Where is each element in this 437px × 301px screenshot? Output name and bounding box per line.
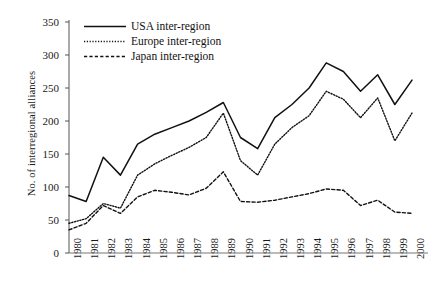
legend-swatch-dotted <box>84 36 126 46</box>
legend-swatch-solid <box>84 21 126 31</box>
legend-item-japan: Japan inter-region <box>84 48 274 63</box>
series-line-usa <box>69 63 412 202</box>
legend-item-europe: Europe inter-region <box>84 33 274 48</box>
legend-label: USA inter-region <box>131 20 210 32</box>
chart-container: No. of interregional alliances 350300250… <box>0 0 437 301</box>
chart-legend: USA inter-regionEurope inter-regionJapan… <box>84 18 274 63</box>
legend-label: Japan inter-region <box>131 50 214 62</box>
legend-swatch-dashed <box>84 51 126 61</box>
series-line-europe <box>69 91 412 223</box>
legend-label: Europe inter-region <box>131 35 221 47</box>
series-line-japan <box>69 172 412 230</box>
legend-item-usa: USA inter-region <box>84 18 274 33</box>
